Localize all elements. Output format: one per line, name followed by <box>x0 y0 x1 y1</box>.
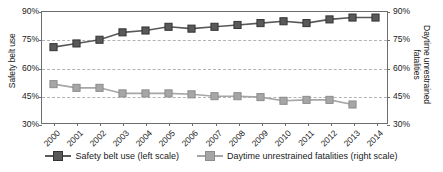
data-point-marker <box>119 29 126 36</box>
y-axis-left-tick-label: 75% <box>22 34 39 44</box>
data-point-marker <box>372 14 379 21</box>
data-point-marker <box>73 40 80 47</box>
x-axis-tick-mark <box>77 123 78 126</box>
data-point-marker <box>142 90 149 97</box>
data-point-marker <box>96 36 103 43</box>
dual-axis-line-chart: Safety belt use Daytime unrestrained fat… <box>0 0 443 172</box>
data-point-marker <box>349 101 356 108</box>
y-axis-left-title: Safety belt use <box>8 27 18 95</box>
y-axis-left-tick-label: 60% <box>22 63 39 73</box>
x-axis-tick-mark <box>123 123 124 126</box>
y-axis-right-tick-label: 60% <box>393 63 410 73</box>
data-point-marker <box>349 14 356 21</box>
x-axis-tick-mark <box>216 123 217 126</box>
data-point-marker <box>188 25 195 32</box>
y-axis-right-tick-mark <box>387 12 390 13</box>
x-axis-tick-mark <box>377 123 378 126</box>
y-axis-right-tick-label: 30% <box>393 119 410 129</box>
legend-label: Safety belt use (left scale) <box>75 151 179 161</box>
data-point-marker <box>188 91 195 98</box>
y-axis-left-tick-mark <box>39 125 42 126</box>
data-point-marker <box>257 20 264 27</box>
x-axis-tick-mark <box>239 123 240 126</box>
data-point-marker <box>142 27 149 34</box>
data-point-marker <box>211 23 218 30</box>
x-axis-tick-mark <box>331 123 332 126</box>
y-axis-right-tick-label: 75% <box>393 34 410 44</box>
y-axis-right-tick-mark <box>387 125 390 126</box>
series-layer <box>42 12 387 123</box>
y-axis-right-tick-mark <box>387 97 390 98</box>
x-axis-tick-mark <box>54 123 55 126</box>
data-point-marker <box>165 23 172 30</box>
data-point-marker <box>280 18 287 25</box>
y-axis-right-tick-mark <box>387 69 390 70</box>
data-point-marker <box>326 16 333 23</box>
x-axis-tick-mark <box>169 123 170 126</box>
y-axis-left-tick-label: 45% <box>22 91 39 101</box>
data-point-marker <box>326 96 333 103</box>
x-axis-tick-mark <box>100 123 101 126</box>
x-axis-tick-mark <box>354 123 355 126</box>
y-axis-right-tick-mark <box>387 40 390 41</box>
x-axis-tick-mark <box>308 123 309 126</box>
y-axis-right-tick-label: 45% <box>393 91 410 101</box>
data-point-marker <box>280 97 287 104</box>
y-axis-right-title: Daytime unrestrained fatalities <box>412 22 431 108</box>
chart-legend: Safety belt use (left scale)Daytime unre… <box>0 150 443 161</box>
legend-marker-icon <box>45 150 71 161</box>
data-point-marker <box>50 44 57 51</box>
data-point-marker <box>50 81 57 88</box>
legend-label: Daytime unrestrained fatalities (right s… <box>227 151 398 161</box>
y-axis-left-tick-label: 90% <box>22 6 39 16</box>
x-axis-tick-mark <box>285 123 286 126</box>
data-point-marker <box>73 84 80 91</box>
x-axis-tick-mark <box>262 123 263 126</box>
legend-marker-icon <box>197 150 223 161</box>
legend-item-2[interactable]: Daytime unrestrained fatalities (right s… <box>197 150 398 161</box>
x-axis-tick-mark <box>146 123 147 126</box>
data-point-marker <box>234 93 241 100</box>
data-point-marker <box>211 93 218 100</box>
y-axis-left-tick-label: 30% <box>22 119 39 129</box>
data-point-marker <box>303 20 310 27</box>
data-point-marker <box>119 90 126 97</box>
x-axis-tick-mark <box>192 123 193 126</box>
y-axis-right-tick-label: 90% <box>393 6 410 16</box>
data-point-marker <box>257 94 264 101</box>
data-point-marker <box>303 96 310 103</box>
legend-swatch <box>205 151 215 161</box>
legend-swatch <box>53 151 63 161</box>
data-point-marker <box>234 21 241 28</box>
plot-area <box>41 11 388 124</box>
data-point-marker <box>165 90 172 97</box>
legend-item-1[interactable]: Safety belt use (left scale) <box>45 150 179 161</box>
data-point-marker <box>96 84 103 91</box>
